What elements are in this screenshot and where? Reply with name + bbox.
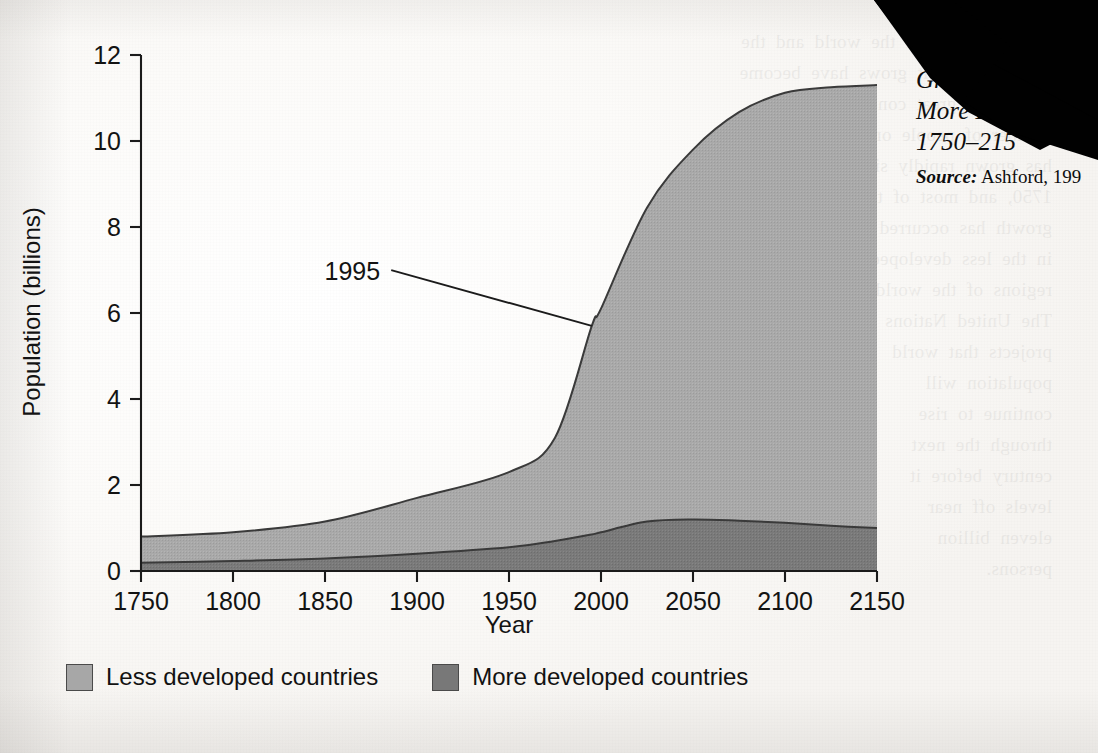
annotation-1995-label: 1995: [325, 257, 381, 285]
annotation-1995-leader-line: [391, 270, 592, 326]
caption-source-word: Source:: [916, 166, 977, 187]
y-tick-label: 8: [107, 213, 121, 241]
annotation-1995: 1995: [325, 257, 592, 326]
x-tick-label: 1800: [205, 587, 261, 615]
caption-line-1: Grow: [916, 64, 1098, 95]
caption-line-2: More De: [916, 95, 1098, 126]
x-tick-label: 2000: [573, 587, 629, 615]
legend-swatch-more-developed: [432, 664, 459, 691]
y-tick-label: 10: [93, 127, 121, 155]
legend-item-less-developed: Less developed countries: [66, 663, 378, 691]
y-axis-ticks: 024681012: [93, 41, 141, 585]
x-tick-label: 2150: [849, 587, 905, 615]
y-tick-label: 0: [107, 557, 121, 585]
chart-legend: Less developed countries More developed …: [66, 663, 748, 691]
y-tick-label: 6: [107, 299, 121, 327]
x-tick-label: 1900: [389, 587, 445, 615]
legend-label-less-developed: Less developed countries: [106, 663, 378, 691]
legend-item-more-developed: More developed countries: [432, 663, 748, 691]
x-tick-label: 2050: [665, 587, 721, 615]
caption-source: Source: Ashford, 199: [916, 165, 1098, 189]
figure-caption: F Grow More De 1750–215 Source: Ashford,…: [916, 34, 1098, 189]
plot-areas: [141, 85, 877, 571]
legend-swatch-less-developed: [66, 664, 93, 691]
y-tick-label: 12: [93, 41, 121, 69]
legend-label-more-developed: More developed countries: [472, 663, 748, 691]
x-tick-label: 1850: [297, 587, 353, 615]
y-tick-label: 2: [107, 471, 121, 499]
x-axis-ticks: 175018001850190019502000205021002150: [113, 571, 905, 615]
x-axis-title: Year: [485, 611, 534, 638]
caption-source-text: Ashford, 199: [981, 166, 1081, 187]
area-less-developed-countries: [141, 85, 877, 571]
y-tick-label: 4: [107, 385, 121, 413]
x-tick-label: 2100: [757, 587, 813, 615]
x-tick-label: 1750: [113, 587, 169, 615]
caption-line-3: 1750–215: [916, 126, 1098, 157]
figure-page: the population of the world and the rate…: [0, 0, 1098, 753]
caption-figure-number: F: [916, 34, 1098, 64]
y-axis-title: Population (billions): [18, 207, 45, 416]
